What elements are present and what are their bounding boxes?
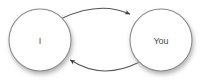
node-you-label: You — [153, 36, 168, 46]
node-i-label: I — [39, 36, 42, 46]
edge-you-to-i-arrow — [71, 60, 139, 71]
diagram-canvas: I You — [0, 0, 205, 81]
edges-layer — [62, 8, 139, 71]
node-you[interactable]: You — [130, 9, 192, 71]
node-i[interactable]: I — [9, 9, 71, 71]
cycle-diagram: I You — [0, 0, 205, 81]
edge-i-to-you-arrow — [62, 8, 130, 18]
